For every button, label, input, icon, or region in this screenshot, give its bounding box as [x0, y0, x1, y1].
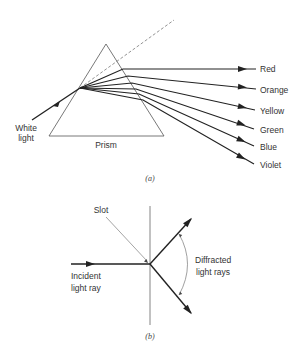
prism-shape [49, 44, 164, 136]
white-light-arrow-icon [53, 101, 60, 107]
color-label-blue: Blue [260, 142, 277, 152]
incident-arrow-icon [86, 261, 95, 267]
violet-arrow-icon [236, 152, 247, 162]
prism-label: Prism [95, 140, 117, 150]
incident-label-line2: light ray [71, 283, 102, 293]
green-arrow-icon [236, 120, 246, 129]
diffracted-label-line2: light rays [196, 267, 230, 277]
slot-leader-line [106, 217, 147, 261]
color-label-red: Red [260, 64, 276, 74]
figure-a-caption: (a) [145, 174, 155, 183]
diffracted-ray-upper [150, 219, 191, 264]
diffracted-ray-lower [150, 264, 191, 313]
yellow-arrow-icon [237, 103, 247, 111]
diffracted-label-line1: Diffracted [195, 255, 231, 265]
diagram-canvas: Red Orange Yellow Green Blue Violet Whit… [0, 0, 303, 354]
slot-pointer-arrow-icon [144, 259, 148, 263]
red-arrow-icon [238, 66, 247, 72]
white-light-label-line1: White [15, 123, 37, 133]
orange-arrow-icon [238, 84, 248, 91]
blue-arrow-icon [236, 136, 247, 145]
figure-a-prism-dispersion: Red Orange Yellow Green Blue Violet Whit… [15, 20, 288, 183]
diffraction-angle-arc [179, 234, 188, 295]
figure-b-caption: (b) [145, 332, 155, 341]
color-label-green: Green [260, 125, 284, 135]
incident-label-line1: Incident [71, 271, 101, 281]
figure-b-slot-diffraction: Slot Incident light ray Diffracted light… [71, 205, 231, 341]
color-label-orange: Orange [260, 85, 289, 95]
color-ray-arrows [236, 66, 247, 162]
white-light-label-line2: light [18, 133, 34, 143]
slot-label: Slot [94, 205, 109, 215]
color-label-violet: Violet [260, 160, 282, 170]
color-label-yellow: Yellow [260, 106, 285, 116]
